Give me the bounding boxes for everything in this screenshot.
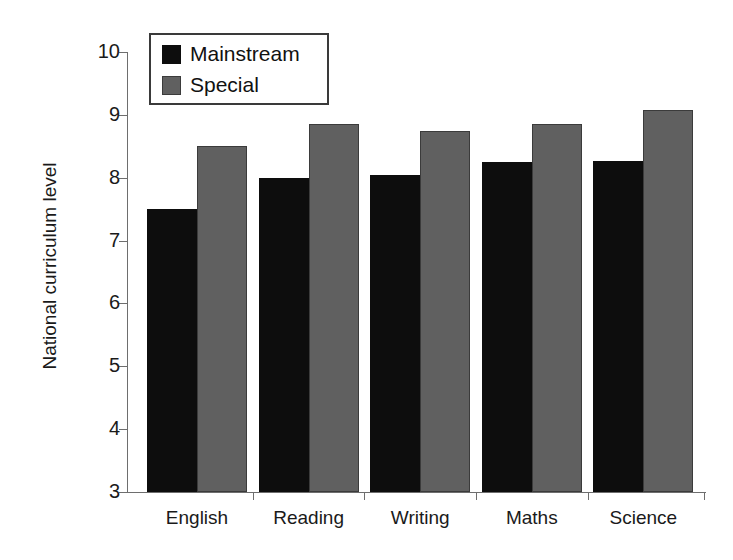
- bar-special-maths: [532, 124, 582, 492]
- legend: Mainstream Special: [149, 33, 329, 105]
- y-tick-label: 10: [80, 40, 120, 63]
- category-label-science: Science: [563, 507, 723, 529]
- bar-special-writing: [420, 131, 470, 492]
- y-tick-label: 8: [80, 166, 120, 189]
- y-tick-label: 7: [80, 229, 120, 252]
- x-tick-mark: [364, 492, 365, 500]
- y-tick-label: 5: [80, 354, 120, 377]
- y-tick-label: 6: [80, 291, 120, 314]
- bar-chart: National curriculum level 345678910 Engl…: [0, 0, 733, 560]
- legend-item-mainstream: Mainstream: [162, 42, 300, 66]
- bar-group-writing: [370, 52, 470, 492]
- legend-label-special: Special: [190, 73, 259, 97]
- y-tick-mark: [119, 241, 127, 242]
- x-axis-line: [127, 492, 706, 493]
- y-axis-line: [127, 52, 128, 493]
- y-tick-label: 3: [80, 480, 120, 503]
- bar-special-reading: [309, 124, 359, 492]
- bar-group-science: [593, 52, 693, 492]
- x-tick-mark: [476, 492, 477, 500]
- y-tick-mark: [119, 178, 127, 179]
- bar-mainstream-science: [593, 161, 643, 492]
- y-tick-label: 9: [80, 103, 120, 126]
- y-tick-mark: [119, 492, 127, 493]
- special-swatch-icon: [162, 76, 181, 95]
- bar-special-english: [197, 146, 247, 492]
- plot-area: 345678910 EnglishReadingWritingMathsScie…: [127, 52, 705, 492]
- y-tick-mark: [119, 366, 127, 367]
- x-tick-mark: [588, 492, 589, 500]
- y-tick-label: 4: [80, 417, 120, 440]
- bar-group-reading: [259, 52, 359, 492]
- mainstream-swatch-icon: [162, 45, 181, 64]
- bar-group-maths: [482, 52, 582, 492]
- bar-mainstream-writing: [370, 175, 420, 492]
- x-tick-mark: [704, 492, 705, 500]
- y-tick-mark: [119, 303, 127, 304]
- y-tick-mark: [119, 115, 127, 116]
- bar-mainstream-reading: [259, 178, 309, 492]
- bar-group-english: [147, 52, 247, 492]
- bar-mainstream-english: [147, 209, 197, 492]
- y-axis-title: National curriculum level: [39, 96, 61, 436]
- y-tick-mark: [119, 429, 127, 430]
- legend-label-mainstream: Mainstream: [190, 42, 300, 66]
- bar-special-science: [643, 110, 693, 492]
- y-tick-mark: [119, 52, 127, 53]
- legend-item-special: Special: [162, 73, 259, 97]
- x-tick-mark: [253, 492, 254, 500]
- bar-mainstream-maths: [482, 162, 532, 492]
